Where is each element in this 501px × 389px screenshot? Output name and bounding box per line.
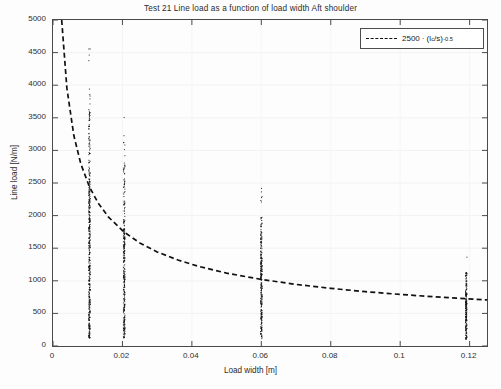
y-axis-tick-label: 5000 — [0, 14, 46, 23]
plot-area — [52, 19, 488, 347]
legend-entry-label: 2500 · (l c /s) -0.5 — [402, 34, 453, 43]
legend-exponent: -0.5 — [443, 36, 453, 42]
legend-base-close: /s) — [434, 34, 443, 43]
x-axis-tick-label: 0.08 — [310, 351, 350, 360]
y-axis-tick-label: 3500 — [0, 112, 46, 121]
scatter-points-group — [88, 48, 467, 339]
legend-dot-operator: · — [422, 34, 425, 43]
x-axis-tick-label: 0.04 — [171, 351, 211, 360]
y-axis-tick-label: 500 — [0, 307, 46, 316]
y-axis-tick-label: 2000 — [0, 210, 46, 219]
y-axis-tick-label: 4000 — [0, 79, 46, 88]
figure-canvas: Test 21 Line load as a function of load … — [0, 0, 501, 389]
x-axis-tick-label: 0.1 — [379, 351, 419, 360]
x-axis-tick-label: 0 — [32, 351, 72, 360]
legend-coefficient: 2500 — [402, 34, 420, 43]
x-axis-tick-label: 0.12 — [449, 351, 489, 360]
legend-box[interactable]: 2500 · (l c /s) -0.5 — [360, 28, 484, 49]
legend-dash-swatch-icon — [366, 38, 397, 39]
y-axis-tick-label: 0 — [0, 340, 46, 349]
fit-curve-path — [62, 20, 487, 300]
x-axis-tick-label: 0.06 — [240, 351, 280, 360]
y-axis-tick-label: 1500 — [0, 242, 46, 251]
y-axis-tick-label: 4500 — [0, 47, 46, 56]
x-axis-label: Load width [m] — [0, 366, 501, 375]
y-axis-tick-label: 3000 — [0, 144, 46, 153]
plot-svg — [53, 20, 487, 346]
gridlines-group — [53, 20, 487, 346]
y-axis-label: Line load [N/m] — [10, 103, 19, 243]
x-axis-tick-label: 0.02 — [101, 351, 141, 360]
y-axis-tick-label: 2500 — [0, 177, 46, 186]
chart-title: Test 21 Line load as a function of load … — [0, 4, 501, 13]
y-axis-tick-label: 1000 — [0, 275, 46, 284]
